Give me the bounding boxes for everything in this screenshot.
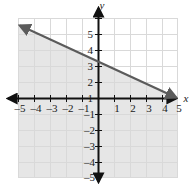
x-axis-label: x [183,92,189,104]
x-tick-label: 2 [130,102,136,114]
x-tick-label: –2 [62,102,74,114]
x-tick-label: 3 [146,102,152,114]
coordinate-plane-figure: –5 –4 –3 –2 –1 1 2 3 4 5 5 4 3 2 1 –1 –2… [0,0,194,190]
y-tick-label: –3 [83,140,96,152]
x-tick-label: –3 [46,102,59,114]
y-axis-label: y [99,0,105,11]
x-tick-label: 4 [162,102,168,114]
x-tick-label: 5 [176,102,182,114]
y-tick-label: –2 [83,124,95,136]
y-tick-label: 3 [88,60,94,72]
y-tick-label: 5 [88,28,94,40]
x-tick-label: –5 [14,102,27,114]
x-tick-label: –4 [30,102,43,114]
graph-canvas: –5 –4 –3 –2 –1 1 2 3 4 5 5 4 3 2 1 –1 –2… [0,0,194,190]
y-tick-label: –1 [83,108,95,120]
y-tick-label: 1 [88,92,94,104]
y-tick-label: 2 [88,76,94,88]
y-tick-label: 4 [88,44,94,56]
y-tick-label: –4 [83,156,96,168]
y-tick-label: –5 [83,171,96,183]
x-tick-label: 1 [114,102,120,114]
